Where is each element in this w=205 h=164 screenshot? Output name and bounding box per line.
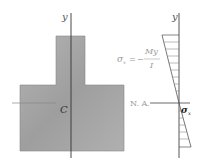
formula-numerator: My [144, 47, 158, 56]
bending-stress-formula: σ x = − My I [117, 47, 160, 70]
diagram-canvas: y C y σ x [0, 0, 205, 164]
formula-denominator: I [149, 61, 154, 70]
stress-y-label: y [171, 11, 178, 22]
stress-distribution [162, 35, 191, 147]
formula-sigma-sub: x [123, 59, 126, 65]
stress-label-sub: x [188, 110, 191, 116]
cross-section [20, 36, 124, 151]
formula-minus: − [137, 55, 144, 64]
centroid-label: C [60, 104, 68, 115]
formula-equals: = [129, 55, 136, 64]
hatch-lines-upper [164, 42, 179, 91]
t-section-shape [20, 36, 124, 151]
stress-label: σ [181, 105, 188, 115]
section-y-label: y [61, 11, 68, 22]
neutral-axis-label: N. A. [130, 99, 150, 108]
